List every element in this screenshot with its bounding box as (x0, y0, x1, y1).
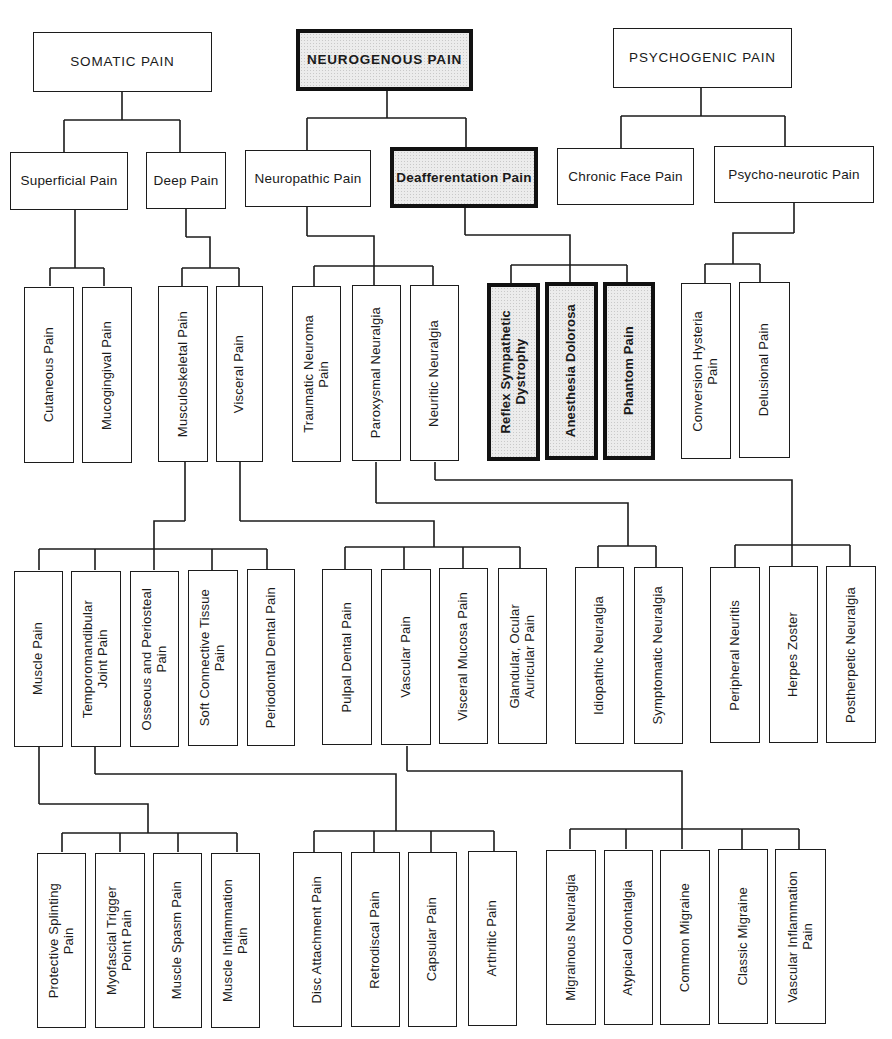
node-herpes-zoster: Herpes Zoster (769, 566, 818, 743)
connector-psychogenic (621, 88, 785, 148)
node-label: Deep Pain (154, 173, 219, 188)
connector-tmj (95, 746, 494, 852)
node-neuritic-neuralgia: Neuritic Neuralgia (410, 285, 459, 461)
connector-paroxysmal (376, 462, 656, 568)
node-label: Osseous and Periosteal Pain (140, 588, 169, 730)
node-arthritic-pain: Arthritic Pain (468, 851, 517, 1026)
node-myofascial-trigger-point-pain: Myofascial Trigger Point Pain (95, 853, 145, 1028)
node-phantom-pain: Phantom Pain (603, 282, 655, 460)
node-label: Postherpetic Neuralgia (844, 587, 859, 723)
node-psycho-neurotic-pain: Psycho-neurotic Pain (714, 146, 874, 203)
node-protective-splinting-pain: Protective Splinting Pain (37, 853, 86, 1028)
node-label: Chronic Face Pain (568, 169, 682, 184)
node-label: Traumatic Neuroma Pain (302, 315, 331, 433)
node-temporomandibular-joint-pain: Temporomandibular Joint Pain (71, 571, 121, 747)
node-muscle-inflammation-pain: Muscle Inflammation Pain (211, 853, 260, 1028)
node-disc-attachment-pain: Disc Attachment Pain (293, 852, 342, 1027)
node-label: Classic Migraine (736, 887, 751, 986)
node-label: Pulpal Dental Pain (340, 602, 355, 713)
node-symptomatic-neuralgia: Symptomatic Neuralgia (634, 567, 683, 744)
node-label: Migrainous Neuralgia (564, 874, 579, 1001)
connector-deep (182, 209, 239, 286)
node-deep-pain: Deep Pain (146, 152, 226, 209)
node-label: Reflex Sympathetic Dystrophy (499, 310, 528, 434)
node-common-migraine: Common Migraine (660, 850, 710, 1025)
node-neuropathic-pain: Neuropathic Pain (245, 150, 371, 207)
node-label: Phantom Pain (622, 326, 637, 415)
node-vascular-pain: Vascular Pain (381, 569, 431, 745)
node-label: Delusional Pain (757, 323, 772, 416)
connector-superficial (50, 210, 104, 286)
node-peripheral-neuritis: Peripheral Neuritis (710, 567, 760, 743)
node-pulpal-dental-pain: Pulpal Dental Pain (322, 569, 372, 745)
node-capsular-pain: Capsular Pain (408, 852, 457, 1027)
node-chronic-face-pain: Chronic Face Pain (557, 148, 694, 205)
node-label: Idiopathic Neuralgia (592, 596, 607, 715)
node-label: Periodontal Dental Pain (264, 587, 279, 728)
node-postherpetic-neuralgia: Postherpetic Neuralgia (826, 566, 876, 743)
node-label: Anesthesia Dolorosa (564, 304, 579, 437)
node-atypical-odontalgia: Atypical Odontalgia (604, 850, 653, 1025)
node-mucogingival-pain: Mucogingival Pain (82, 287, 132, 463)
node-label: Conversion Hysteria Pain (691, 311, 720, 432)
node-visceral-mucosa-pain: Visceral Mucosa Pain (439, 568, 488, 744)
node-cutaneous-pain: Cutaneous Pain (24, 287, 74, 463)
node-label: Capsular Pain (425, 897, 440, 981)
node-label: Atypical Odontalgia (621, 880, 636, 996)
connector-neuritic (435, 462, 850, 567)
node-neurogenous-pain: NEUROGENOUS PAIN (296, 29, 473, 91)
node-label: Muscle Spasm Pain (170, 881, 185, 999)
node-label: Herpes Zoster (786, 612, 801, 697)
node-soft-connective-tissue-pain: Soft Connective Tissue Pain (188, 570, 238, 746)
node-label: Symptomatic Neuralgia (651, 586, 666, 725)
connector-somatic (64, 92, 180, 152)
connector-neurogenous (307, 90, 466, 150)
node-label: Neuropathic Pain (255, 171, 362, 186)
node-glandular-ocular-auricular-pain: Glandular, Ocular Auricular Pain (498, 568, 547, 744)
node-label: Glandular, Ocular Auricular Pain (508, 604, 537, 709)
node-label: Common Migraine (678, 883, 693, 992)
node-superficial-pain: Superficial Pain (10, 152, 128, 210)
connector-deafferentation (465, 207, 627, 285)
node-psychogenic-pain: PSYCHOGENIC PAIN (613, 28, 792, 88)
node-label: Superficial Pain (20, 173, 117, 188)
node-label: Protective Splinting Pain (47, 883, 76, 998)
node-label: Musculoskeletal Pain (176, 311, 191, 437)
pain-classification-diagram: SOMATIC PAIN NEUROGENOUS PAIN PSYCHOGENI… (0, 0, 892, 1039)
node-label: Disc Attachment Pain (310, 876, 325, 1004)
node-label: Retrodiscal Pain (368, 891, 383, 989)
node-deafferentation-pain: Deafferentation Pain (390, 147, 538, 208)
node-periodontal-dental-pain: Periodontal Dental Pain (247, 569, 295, 746)
node-label: Cutaneous Pain (42, 327, 57, 422)
node-label: Mucogingival Pain (100, 321, 115, 430)
node-muscle-spasm-pain: Muscle Spasm Pain (153, 853, 202, 1028)
node-anesthesia-dolorosa: Anesthesia Dolorosa (545, 282, 598, 460)
node-idiopathic-neuralgia: Idiopathic Neuralgia (575, 567, 624, 744)
node-vascular-inflammation-pain: Vascular Inflammation Pain (775, 849, 826, 1024)
connector-musculoskeletal (39, 462, 267, 570)
node-label: SOMATIC PAIN (70, 54, 174, 69)
node-label: Peripheral Neuritis (728, 600, 743, 711)
node-musculoskeletal-pain: Musculoskeletal Pain (158, 286, 208, 462)
node-label: Arthritic Pain (485, 900, 500, 977)
node-label: Vascular Inflammation Pain (786, 871, 815, 1003)
node-label: Muscle Pain (31, 622, 46, 695)
node-osseous-periosteal-pain: Osseous and Periosteal Pain (130, 571, 179, 747)
node-somatic-pain: SOMATIC PAIN (33, 32, 212, 92)
node-traumatic-neuroma-pain: Traumatic Neuroma Pain (292, 286, 341, 462)
node-label: Visceral Mucosa Pain (456, 592, 471, 721)
node-conversion-hysteria-pain: Conversion Hysteria Pain (681, 283, 731, 459)
node-label: Deafferentation Pain (396, 170, 531, 185)
connector-vascular (407, 746, 799, 849)
node-reflex-sympathetic-dystrophy: Reflex Sympathetic Dystrophy (487, 283, 540, 461)
node-delusional-pain: Delusional Pain (739, 282, 790, 458)
node-label: Soft Connective Tissue Pain (198, 589, 227, 726)
node-muscle-pain: Muscle Pain (14, 571, 63, 747)
node-migrainous-neuralgia: Migrainous Neuralgia (546, 850, 596, 1025)
node-label: Visceral Pain (232, 335, 247, 413)
node-label: Psycho-neurotic Pain (728, 167, 860, 182)
connector-psycho-neurotic (705, 203, 794, 283)
node-label: Vascular Pain (399, 616, 414, 698)
node-label: Muscle Inflammation Pain (221, 879, 250, 1002)
node-visceral-pain: Visceral Pain (216, 286, 263, 462)
